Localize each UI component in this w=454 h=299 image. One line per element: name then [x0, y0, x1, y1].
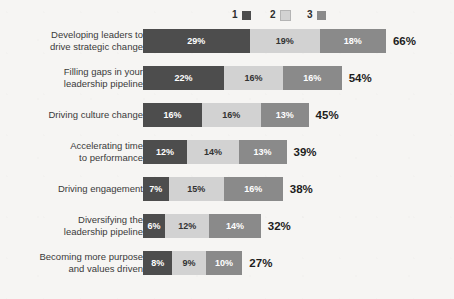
bar-segment-3[interactable]: 14% — [209, 214, 261, 238]
category-label: Driving engagement — [13, 183, 143, 195]
bar-segment-3[interactable]: 10% — [206, 251, 243, 275]
stacked-bar: 22%16%16% — [143, 66, 342, 90]
bar-segment-1[interactable]: 22% — [143, 66, 224, 90]
row-total-value: 66% — [393, 35, 416, 47]
bar-segment-3[interactable]: 13% — [239, 140, 287, 164]
stacked-bar: 7%15%16% — [143, 177, 283, 201]
category-label: Developing leaders to drive strategic ch… — [13, 29, 143, 53]
bar-segment-3[interactable]: 13% — [261, 103, 309, 127]
bar-segment-1[interactable]: 7% — [143, 177, 169, 201]
bar-segment-1[interactable]: 12% — [143, 140, 187, 164]
stacked-bar: 12%14%13% — [143, 140, 287, 164]
chart-row: Filling gaps in your leadership pipeline… — [0, 66, 454, 90]
category-label: Filling gaps in your leadership pipeline — [13, 66, 143, 90]
chart-row: Diversifying the leadership pipeline6%12… — [0, 214, 454, 238]
bar-segment-2[interactable]: 12% — [165, 214, 209, 238]
stacked-bar: 29%19%18% — [143, 29, 386, 53]
chart-row: Becoming more purpose and values driven8… — [0, 251, 454, 275]
row-total-value: 32% — [268, 220, 291, 232]
stacked-bar: 6%12%14% — [143, 214, 261, 238]
bar-segment-1[interactable]: 6% — [143, 214, 165, 238]
bar-segment-1[interactable]: 29% — [143, 29, 250, 53]
bar-segment-3[interactable]: 18% — [320, 29, 386, 53]
row-total-value: 38% — [290, 183, 313, 195]
chart-plot-area: Developing leaders to drive strategic ch… — [0, 0, 454, 299]
bar-segment-2[interactable]: 14% — [187, 140, 239, 164]
category-label: Diversifying the leadership pipeline — [13, 214, 143, 238]
bar-segment-2[interactable]: 15% — [169, 177, 224, 201]
chart-row: Driving engagement7%15%16%38% — [0, 177, 454, 201]
bar-segment-3[interactable]: 16% — [283, 66, 342, 90]
stacked-bar: 16%16%13% — [143, 103, 309, 127]
bar-segment-2[interactable]: 19% — [250, 29, 320, 53]
bar-segment-2[interactable]: 16% — [202, 103, 261, 127]
category-label: Accelerating time to performance — [13, 140, 143, 164]
chart-row: Accelerating time to performance12%14%13… — [0, 140, 454, 164]
stacked-bar-chart: 123 Developing leaders to drive strategi… — [0, 0, 454, 299]
bar-segment-3[interactable]: 16% — [224, 177, 283, 201]
bar-segment-2[interactable]: 16% — [224, 66, 283, 90]
category-label: Becoming more purpose and values driven — [13, 251, 143, 275]
bar-segment-1[interactable]: 16% — [143, 103, 202, 127]
row-total-value: 54% — [349, 72, 372, 84]
category-label: Driving culture change — [13, 109, 143, 121]
bar-segment-1[interactable]: 8% — [143, 251, 172, 275]
row-total-value: 45% — [316, 109, 339, 121]
chart-row: Developing leaders to drive strategic ch… — [0, 29, 454, 53]
bar-segment-2[interactable]: 9% — [172, 251, 205, 275]
stacked-bar: 8%9%10% — [143, 251, 242, 275]
row-total-value: 27% — [249, 257, 272, 269]
chart-row: Driving culture change16%16%13%45% — [0, 103, 454, 127]
row-total-value: 39% — [294, 146, 317, 158]
